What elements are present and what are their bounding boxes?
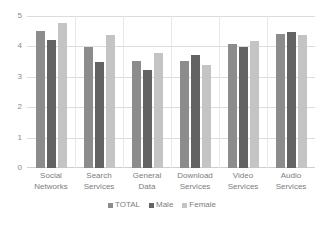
- bar-chart: 5 4 3 2 1 0 SocialNetworksSearchServices…: [0, 0, 324, 229]
- bar[interactable]: [47, 40, 56, 168]
- bar-group: [123, 16, 171, 168]
- bar-groups: [27, 16, 315, 168]
- x-axis-label: AudioServices: [267, 171, 315, 192]
- bar[interactable]: [106, 35, 115, 168]
- x-axis-label: VideoServices: [219, 171, 267, 192]
- bar[interactable]: [191, 55, 200, 168]
- bar[interactable]: [132, 61, 141, 168]
- x-axis-label: SocialNetworks: [27, 171, 75, 192]
- legend-swatch-icon: [149, 203, 154, 208]
- bar-group: [219, 16, 267, 168]
- y-axis-tick: 3: [18, 73, 22, 81]
- bar[interactable]: [250, 41, 259, 168]
- x-axis-label: SearchServices: [75, 171, 123, 192]
- y-axis-tick: 1: [18, 134, 22, 142]
- x-axis-labels: SocialNetworksSearchServicesGeneralDataD…: [27, 171, 315, 192]
- bar-group: [267, 16, 315, 168]
- bar[interactable]: [36, 31, 45, 168]
- bar[interactable]: [180, 61, 189, 168]
- y-axis-tick: 2: [18, 103, 22, 111]
- legend-item-male[interactable]: Male: [149, 201, 173, 209]
- bar[interactable]: [276, 34, 285, 168]
- legend-item-female[interactable]: Female: [182, 201, 216, 209]
- legend-label: Female: [189, 201, 216, 209]
- legend-label: TOTAL: [115, 201, 140, 209]
- y-axis: 5 4 3 2 1 0: [0, 0, 27, 229]
- bar[interactable]: [228, 44, 237, 168]
- bar[interactable]: [287, 32, 296, 168]
- chart-legend: TOTAL Male Female: [0, 201, 324, 209]
- bar-group: [75, 16, 123, 168]
- bar[interactable]: [58, 23, 67, 168]
- x-axis-label: DownloadServices: [171, 171, 219, 192]
- legend-swatch-icon: [108, 203, 113, 208]
- bar[interactable]: [84, 47, 93, 168]
- bar[interactable]: [154, 53, 163, 168]
- bar-group: [27, 16, 75, 168]
- bar[interactable]: [202, 65, 211, 168]
- y-axis-tick: 4: [18, 42, 22, 50]
- y-axis-tick: 5: [18, 12, 22, 20]
- x-axis-label: GeneralData: [123, 171, 171, 192]
- bar[interactable]: [298, 35, 307, 168]
- bar[interactable]: [95, 62, 104, 168]
- bar[interactable]: [239, 47, 248, 168]
- legend-swatch-icon: [182, 203, 187, 208]
- legend-label: Male: [156, 201, 173, 209]
- bar[interactable]: [143, 70, 152, 168]
- y-axis-tick: 0: [18, 164, 22, 172]
- plot-area: [27, 16, 315, 168]
- legend-item-total[interactable]: TOTAL: [108, 201, 140, 209]
- bar-group: [171, 16, 219, 168]
